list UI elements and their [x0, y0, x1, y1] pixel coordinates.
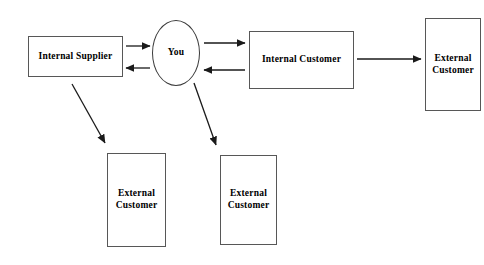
node-external-customer-right-label: External Customer: [426, 53, 480, 77]
node-external-customer-bottom-middle[interactable]: External Customer: [220, 155, 277, 245]
node-external-customer-bottom-left-label: External Customer: [108, 188, 165, 212]
node-internal-supplier-label: Internal Supplier: [37, 51, 115, 63]
node-external-customer-bottom-left[interactable]: External Customer: [107, 153, 166, 247]
node-you-label: You: [166, 47, 186, 59]
node-external-customer-right[interactable]: External Customer: [425, 18, 481, 111]
arrow-supplier-to-external-customer-bottom-left: [72, 84, 105, 143]
node-external-customer-bottom-middle-label: External Customer: [221, 188, 276, 212]
node-internal-supplier[interactable]: Internal Supplier: [28, 36, 123, 77]
diagram-canvas: Internal Supplier You Internal Customer …: [0, 0, 484, 265]
node-internal-customer[interactable]: Internal Customer: [249, 31, 354, 89]
arrow-you-to-external-customer-bottom-middle: [194, 83, 216, 145]
node-you[interactable]: You: [152, 20, 200, 86]
node-internal-customer-label: Internal Customer: [260, 54, 343, 66]
